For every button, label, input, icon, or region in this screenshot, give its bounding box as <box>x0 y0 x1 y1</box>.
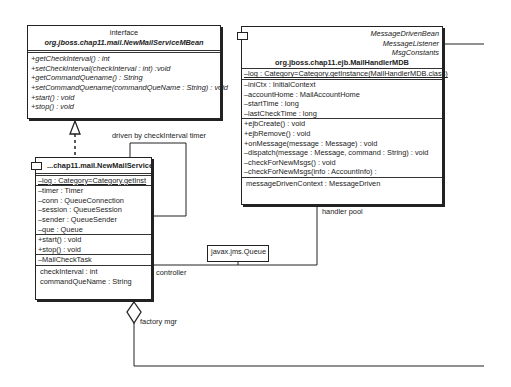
operation: +getCheckInterval() : int <box>31 54 217 64</box>
service-operations: +start() : void +stop() : void <box>36 234 151 254</box>
operation: +start() : void <box>38 235 149 245</box>
mdb-properties: messageDrivenContext : MessageDriven <box>242 177 442 190</box>
attribute: –startTime : long <box>244 99 440 109</box>
attribute: –iniCtx : InitialContext <box>244 80 440 90</box>
operation: +ejbCreate() : void <box>244 119 440 129</box>
implemented-interface: MessageListener <box>242 39 439 49</box>
handler-pool-label: handler pool <box>322 207 363 216</box>
operation: –checkForNewMsgs(info : AccountInfo) : <box>244 167 440 177</box>
operation: +onMessage(message : Message) : void <box>244 139 440 149</box>
mdb-class-name: org.jboss.chap11.ejb.MailHandlerMDB <box>242 58 442 69</box>
property: checkInterval : int <box>40 267 147 277</box>
attribute: –que : Queue <box>38 225 149 235</box>
factory-mgr-connector <box>134 323 484 366</box>
aggregation-diamond <box>127 302 141 323</box>
operation: –dispatch(message : Message, command : S… <box>244 148 440 158</box>
implemented-interface: MessageDrivenBean <box>242 29 439 39</box>
inner-class: –MailCheckTask <box>38 255 149 265</box>
mdb-attributes: –iniCtx : InitialContext –accountHome : … <box>242 79 442 118</box>
operation: –checkForNewMsgs() : void <box>244 158 440 168</box>
property: commandQueName : String <box>40 277 147 287</box>
controller-label: controller <box>156 268 186 277</box>
attribute: –accountHome : MailAccountHome <box>244 90 440 100</box>
static-attribute: –log : Category=Category.getInst <box>38 176 149 186</box>
implemented-interface: MsgConstants <box>242 48 439 58</box>
attribute: –lastCheckTime : long <box>244 109 440 119</box>
factory-mgr-label: factory mgr <box>140 317 177 326</box>
attribute: –conn : QueueConnection <box>38 196 149 206</box>
operation: +stop() : void <box>31 102 217 112</box>
attribute: –sender : QueueSender <box>38 215 149 225</box>
interface-operations: +getCheckInterval() : int +setCheckInter… <box>28 50 220 113</box>
mdb-operations: +ejbCreate() : void +ejbRemove() : void … <box>242 118 442 177</box>
component-icon <box>237 32 248 40</box>
service-inner-classes: –MailCheckTask <box>36 254 151 265</box>
static-attribute: –log : Category=Category.getInstance(Mai… <box>244 69 440 79</box>
service-attributes: –timer : Timer –conn : QueueConnection –… <box>36 185 151 234</box>
service-class-name: ...chap11.mail.NewMailService <box>36 158 151 173</box>
mdb-class-box: MessageDrivenBean MessageListener MsgCon… <box>241 26 443 205</box>
operation: +ejbRemove() : void <box>244 129 440 139</box>
operation: +stop() : void <box>38 245 149 255</box>
interface-class-box: interface org.jboss.chap11.mail.NewMailS… <box>27 25 221 119</box>
service-properties: checkInterval : int commandQueName : Str… <box>36 265 151 287</box>
attribute: –timer : Timer <box>38 186 149 196</box>
attribute: –session : QueueSession <box>38 205 149 215</box>
component-icon <box>31 162 42 170</box>
operation: +setCommandQuename(commandQueName : Stri… <box>31 83 217 93</box>
realization-arrow <box>70 121 80 157</box>
service-class-box: ...chap11.mail.NewMailService –log : Cat… <box>35 157 152 300</box>
queue-class-box: javax.jms.Queue <box>207 245 269 262</box>
interface-name: org.jboss.chap11.mail.NewMailServiceMBea… <box>28 38 220 48</box>
interface-stereotype: interface <box>28 28 220 38</box>
property: messageDrivenContext : MessageDriven <box>246 179 438 189</box>
operation: +setCheckInterval(checkInterval : int) :… <box>31 64 217 74</box>
operation: +start() : void <box>31 93 217 103</box>
operation: +getCommandQuename() : String <box>31 73 217 83</box>
uml-class-diagram: interface org.jboss.chap11.mail.NewMailS… <box>0 0 511 387</box>
self-loop-label: driven by checkInterval timer <box>112 131 206 140</box>
